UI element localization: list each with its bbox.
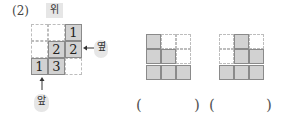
answer-1-open-paren: (: [136, 96, 142, 114]
front-label: 앞: [34, 94, 49, 112]
top-view-label: 위: [46, 3, 63, 18]
empty-cell: [219, 49, 234, 64]
answer-option-2-figure: [219, 34, 264, 80]
top-view-grid: 12213: [31, 24, 82, 75]
grid-cell-empty: [31, 41, 48, 58]
empty-cell: [161, 34, 176, 49]
grid-cell-count: 1: [65, 24, 82, 41]
grid-cell-count: 3: [48, 58, 65, 75]
empty-cell: [176, 49, 191, 64]
cube-face: [161, 65, 176, 80]
answer-2-close-paren: ): [266, 96, 272, 114]
question-number: (2): [12, 4, 29, 18]
grid-cell-count: 1: [31, 58, 48, 75]
side-label: 옆: [94, 40, 108, 58]
cube-face: [146, 49, 161, 64]
cube-face: [234, 65, 249, 80]
answer-option-1-figure: [146, 34, 191, 80]
grid-cell-empty: [65, 58, 82, 75]
cube-face: [219, 65, 234, 80]
cube-face: [249, 65, 264, 80]
cube-face: [249, 49, 264, 64]
cube-face: [176, 65, 191, 80]
grid-cell-count: 2: [65, 41, 82, 58]
grid-cell-count: 2: [48, 41, 65, 58]
grid-cell-empty: [48, 24, 65, 41]
front-arrow-icon: [38, 77, 46, 91]
cube-face: [146, 65, 161, 80]
answer-1-close-paren: ): [194, 96, 200, 114]
empty-cell: [219, 34, 234, 49]
answer-1-field[interactable]: [146, 98, 192, 114]
answer-2-open-paren: (: [209, 96, 215, 114]
cube-face: [146, 34, 161, 49]
grid-cell-empty: [31, 24, 48, 41]
empty-cell: [249, 34, 264, 49]
answer-2-field[interactable]: [219, 98, 265, 114]
empty-cell: [176, 34, 191, 49]
cube-face: [234, 49, 249, 64]
cube-face: [234, 34, 249, 49]
cube-face: [161, 49, 176, 64]
